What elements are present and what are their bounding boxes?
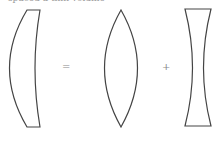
meniscus-lens (10, 10, 41, 127)
equals-sign: = (62, 61, 70, 72)
biconcave-lens (185, 9, 211, 126)
lens-diagram (0, 0, 216, 142)
biconvex-lens (105, 10, 138, 127)
plus-sign: + (162, 61, 170, 72)
